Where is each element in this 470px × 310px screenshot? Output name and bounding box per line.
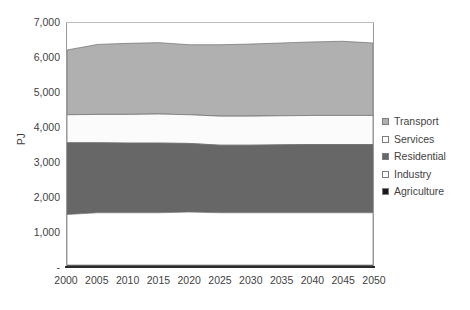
legend-swatch-icon (382, 136, 389, 143)
legend-swatch-icon (382, 171, 389, 178)
legend-swatch-icon (382, 153, 389, 160)
legend-item-industry[interactable]: Industry (382, 166, 468, 184)
legend-item-services[interactable]: Services (382, 131, 468, 149)
y-axis-tick-label: 2,000 (14, 192, 60, 203)
legend-item-label: Residential (394, 151, 446, 162)
y-axis-tick-label: - (14, 262, 60, 273)
area-band-residential (67, 143, 373, 215)
legend-item-transport[interactable]: Transport (382, 113, 468, 131)
y-axis-tick-label: 7,000 (14, 17, 60, 28)
y-axis-tick-label: 5,000 (14, 87, 60, 98)
x-axis-line (65, 266, 375, 268)
area-series-group (67, 22, 373, 267)
x-axis-tick-label: 2050 (354, 275, 394, 286)
area-band-transport (67, 41, 373, 116)
legend-item-label: Transport (394, 116, 439, 127)
legend-item-residential[interactable]: Residential (382, 148, 468, 166)
y-axis-tick-label: 3,000 (14, 157, 60, 168)
stacked-area-chart: PJ -1,0002,0003,0004,0005,0006,0007,000 … (0, 0, 470, 310)
plot-area (66, 22, 374, 267)
y-axis-ticks: -1,0002,0003,0004,0005,0006,0007,000 (8, 0, 60, 310)
y-axis-tick-label: 6,000 (14, 52, 60, 63)
legend-item-label: Services (394, 134, 434, 145)
x-axis-ticks: 2000200520102015202020252030203520402045… (66, 275, 374, 295)
y-axis-tick-label: 4,000 (14, 122, 60, 133)
area-band-services (67, 114, 373, 145)
plot-top-border (66, 22, 374, 23)
chart-legend: TransportServicesResidentialIndustryAgri… (382, 113, 468, 201)
legend-swatch-icon (382, 188, 389, 195)
legend-item-label: Industry (394, 169, 431, 180)
legend-item-agriculture[interactable]: Agriculture (382, 183, 468, 201)
area-band-industry (67, 212, 373, 265)
legend-item-label: Agriculture (394, 186, 444, 197)
y-axis-tick-label: 1,000 (14, 227, 60, 238)
legend-swatch-icon (382, 118, 389, 125)
